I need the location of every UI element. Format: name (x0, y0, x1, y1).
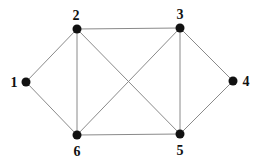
node-label-5: 5 (177, 143, 184, 158)
node-1 (22, 78, 31, 87)
edge-3-4 (180, 28, 233, 81)
node-4 (229, 77, 238, 86)
edge-1-2 (26, 29, 77, 82)
node-label-2: 2 (73, 8, 80, 23)
node-3 (176, 24, 185, 33)
edge-6-5 (77, 134, 180, 135)
nodes-group (22, 24, 238, 140)
edge-2-3 (77, 28, 180, 29)
node-label-4: 4 (243, 74, 250, 89)
node-label-1: 1 (11, 75, 18, 90)
node-label-3: 3 (177, 7, 184, 22)
node-6 (73, 131, 82, 140)
node-2 (73, 25, 82, 34)
node-5 (176, 130, 185, 139)
edge-4-5 (180, 81, 233, 134)
edges-group (26, 28, 233, 135)
graph-diagram: 123456 (0, 0, 258, 161)
edge-1-6 (26, 82, 77, 135)
node-label-6: 6 (74, 144, 81, 159)
